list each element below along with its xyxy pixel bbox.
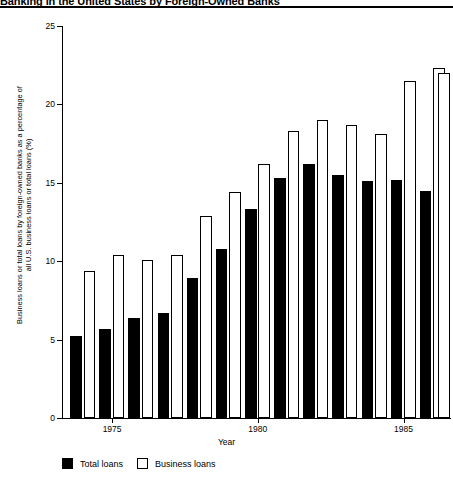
y-axis-tick	[57, 418, 62, 419]
bar-business-loans	[171, 255, 183, 418]
bar-total-loans	[362, 181, 374, 418]
legend-swatch-total-loans	[62, 458, 73, 469]
bar-total-loans	[391, 180, 403, 418]
title-divider	[0, 6, 453, 8]
y-axis-tick-label: 20	[33, 99, 55, 109]
bar-total-loans	[99, 329, 111, 418]
bar-total-loans	[187, 278, 199, 418]
y-axis-label-line2: all U.S. business loans or total loans (…	[25, 20, 34, 390]
chart-figure: Banking in the United States by Foreign-…	[0, 0, 453, 481]
legend-swatch-business-loans	[137, 458, 148, 469]
y-axis-tick-label: 5	[33, 335, 55, 345]
bar-business-loans	[404, 81, 416, 418]
bar-business-loans	[438, 73, 450, 418]
bar-business-loans	[113, 255, 125, 418]
bar-total-loans	[245, 209, 257, 418]
x-axis-tick-label: 1975	[92, 424, 132, 434]
bar-total-loans	[216, 249, 228, 418]
y-axis-tick-label: 15	[33, 178, 55, 188]
legend-label-total-loans: Total loans	[80, 459, 123, 469]
y-axis-label: Business loans or total loans by foreign…	[16, 20, 32, 390]
legend-label-business-loans: Business loans	[155, 459, 216, 469]
x-axis-tick-label: 1985	[384, 424, 424, 434]
x-axis-tick	[112, 418, 113, 423]
legend-item-business-loans: Business loans	[137, 458, 216, 469]
bar-total-loans	[158, 313, 170, 418]
bar-business-loans	[229, 192, 241, 418]
x-axis-title: Year	[0, 437, 453, 447]
y-axis-tick-label: 10	[33, 256, 55, 266]
bar-business-loans	[346, 125, 358, 418]
bar-total-loans	[274, 178, 286, 418]
x-axis-tick-label: 1980	[238, 424, 278, 434]
bar-business-loans	[258, 164, 270, 418]
bar-total-loans	[303, 164, 315, 418]
bar-total-loans	[332, 175, 344, 418]
bar-total-loans	[128, 318, 140, 418]
bar-business-loans	[142, 260, 154, 418]
bar-business-loans	[375, 134, 387, 418]
bar-business-loans	[200, 216, 212, 418]
bar-business-loans	[84, 271, 96, 418]
bar-business-loans	[288, 131, 300, 418]
x-axis-line	[62, 418, 451, 419]
x-axis-tick	[258, 418, 259, 423]
bar-business-loans	[317, 120, 329, 418]
bar-total-loans	[420, 191, 432, 418]
bar-total-loans	[70, 336, 82, 418]
x-axis-tick	[404, 418, 405, 423]
y-axis-tick-label: 0	[33, 413, 55, 423]
chart-legend: Total loans Business loans	[62, 458, 216, 469]
bar-plot-area	[62, 26, 451, 418]
y-axis-tick-label: 25	[33, 21, 55, 31]
legend-item-total-loans: Total loans	[62, 458, 123, 469]
